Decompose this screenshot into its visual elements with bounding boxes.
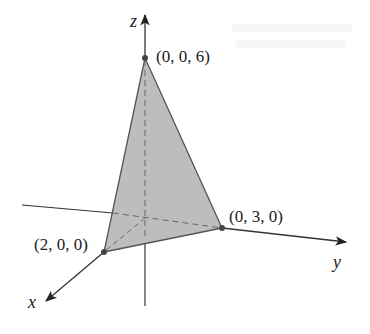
point-label-y-intercept: (0, 3, 0) [229, 208, 283, 225]
point-z-intercept [142, 55, 148, 61]
point-label-x-intercept: (2, 0, 0) [34, 236, 88, 253]
z-axis-label: z [130, 12, 137, 30]
bleed-through-text [236, 40, 346, 48]
point-label-z-intercept: (0, 0, 6) [156, 48, 210, 65]
x-axis [46, 252, 104, 301]
y-axis [222, 228, 346, 242]
x-axis-label: x [28, 293, 36, 311]
triangle-plane [104, 58, 222, 252]
point-x-intercept [101, 249, 107, 255]
y-axis-negative [22, 205, 113, 213]
point-y-intercept [219, 225, 225, 231]
y-axis-label: y [333, 253, 341, 271]
diagram: z y x (0, 0, 6) (0, 3, 0) (2, 0, 0) [0, 0, 370, 334]
bleed-through-text [232, 24, 352, 32]
